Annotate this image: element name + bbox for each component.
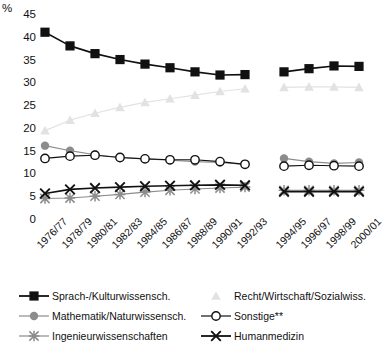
legend-label: Mathematik/Naturwissensch. [50,310,186,322]
legend-item-4[interactable]: Sonstige** [200,307,283,324]
chart-legend: Sprach-/Kulturwissensch.Recht/Wirtschaft… [0,287,365,347]
legend-item-1[interactable]: Sprach-/Kulturwissensch. [18,287,170,304]
legend-item-6[interactable]: Humanmedizin [200,327,304,344]
plot-area [0,0,365,240]
legend-label: Recht/Wirtschaft/Sozialwiss. [232,290,366,302]
asterisk-icon [18,329,50,343]
x-axis-tick-labels: 1976/771978/791980/811982/831984/851986/… [0,236,365,288]
legend-item-5[interactable]: Ingenieurwissenschaften [18,327,168,344]
legend-item-3[interactable]: Mathematik/Naturwissensch. [18,307,186,324]
legend-label: Ingenieurwissenschaften [50,330,168,342]
cross-icon [200,329,232,343]
legend-label: Sonstige** [232,310,283,322]
filled-square-icon [18,289,50,303]
series-canvas [0,0,365,240]
triangle-icon [200,289,232,303]
filled-circle-icon [18,309,50,323]
legend-label: Sprach-/Kulturwissensch. [50,290,170,302]
open-circle-icon [200,309,232,323]
legend-label: Humanmedizin [232,330,304,342]
legend-item-2[interactable]: Recht/Wirtschaft/Sozialwiss. [200,287,366,304]
